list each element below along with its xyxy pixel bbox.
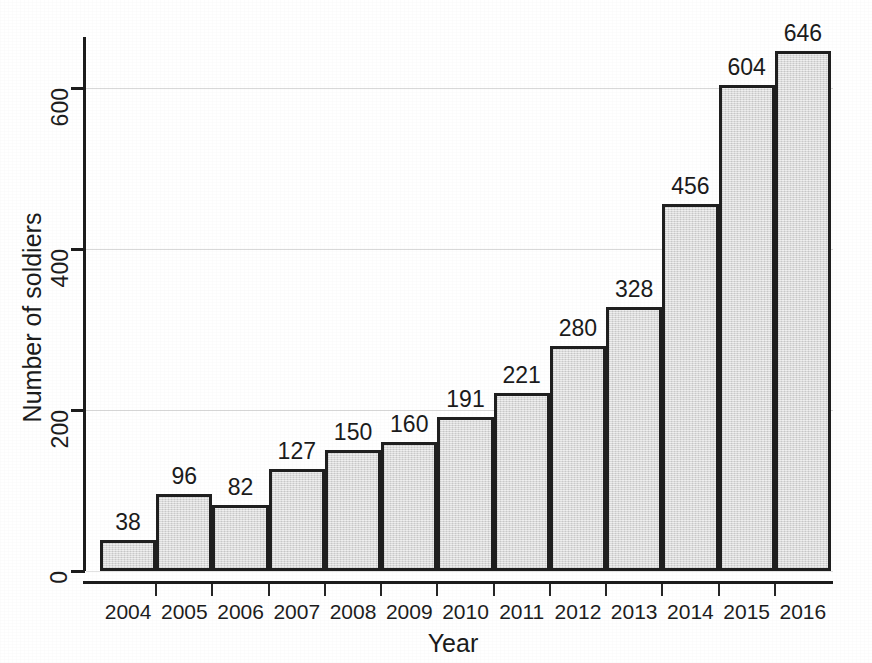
x-tick-2005 [211, 584, 213, 596]
bar-2009 [381, 442, 437, 571]
x-tick-2006 [268, 584, 270, 596]
bar-value-label-2010: 191 [446, 386, 484, 413]
bar-2012 [550, 346, 606, 571]
bar-series: 389682127150160191221280328456604646 [0, 0, 872, 663]
x-tick-2011 [549, 584, 551, 596]
x-tick-label-2010: 2010 [442, 600, 489, 624]
bar-2004 [100, 540, 156, 571]
bar-value-label-2011: 221 [503, 362, 541, 389]
bar-value-label-2016: 646 [784, 20, 822, 47]
bar-2011 [494, 393, 550, 571]
bar-value-label-2009: 160 [390, 411, 428, 438]
bar-value-label-2004: 38 [115, 509, 141, 536]
bar-2014 [662, 204, 718, 571]
bar-value-label-2007: 127 [278, 438, 316, 465]
x-tick-label-2012: 2012 [555, 600, 602, 624]
bar-value-label-2005: 96 [172, 463, 198, 490]
bar-2013 [606, 307, 662, 571]
x-tick-label-2014: 2014 [667, 600, 714, 624]
x-tick-label-2016: 2016 [780, 600, 827, 624]
x-tick-2014 [718, 584, 720, 596]
bar-2015 [719, 85, 775, 571]
x-tick-label-2005: 2005 [161, 600, 208, 624]
x-tick-2013 [661, 584, 663, 596]
bar-2016 [775, 51, 831, 571]
x-tick-2015 [774, 584, 776, 596]
x-axis-title: Year [0, 629, 872, 658]
bar-value-label-2015: 604 [727, 54, 765, 81]
x-tick-2004 [155, 584, 157, 596]
bar-2007 [269, 469, 325, 571]
bar-value-label-2006: 82 [228, 474, 254, 501]
bar-value-label-2008: 150 [334, 419, 372, 446]
x-tick-label-2009: 2009 [386, 600, 433, 624]
x-tick-2010 [493, 584, 495, 596]
x-axis-line [83, 581, 833, 584]
x-tick-label-2007: 2007 [273, 600, 320, 624]
x-tick-2007 [324, 584, 326, 596]
x-tick-label-2013: 2013 [611, 600, 658, 624]
x-tick-label-2015: 2015 [723, 600, 770, 624]
bar-2010 [437, 417, 493, 571]
bar-value-label-2012: 280 [559, 315, 597, 342]
bar-2006 [212, 505, 268, 571]
x-tick-2008 [380, 584, 382, 596]
x-tick-2012 [605, 584, 607, 596]
x-tick-label-2004: 2004 [105, 600, 152, 624]
x-tick-2009 [436, 584, 438, 596]
x-tick-label-2006: 2006 [217, 600, 264, 624]
bar-value-label-2014: 456 [671, 173, 709, 200]
bar-2008 [325, 450, 381, 571]
x-axis-title-text: Year [428, 629, 479, 658]
x-tick-label-2011: 2011 [499, 600, 544, 624]
bar-chart-figure: 0200400600 Number of soldiers 3896821271… [0, 0, 872, 663]
bar-value-label-2013: 328 [615, 276, 653, 303]
bar-2005 [156, 494, 212, 571]
x-tick-label-2008: 2008 [330, 600, 377, 624]
